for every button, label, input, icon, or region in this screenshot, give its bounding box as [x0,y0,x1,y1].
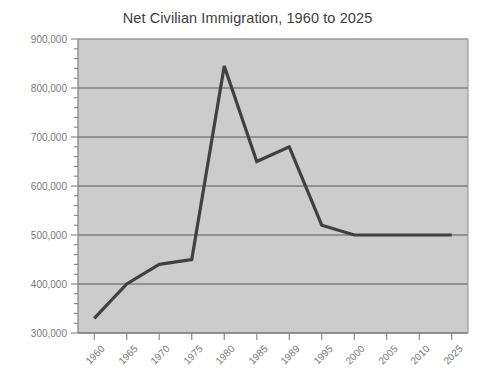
y-axis-tick-label: 800,000 [0,83,67,94]
plot-area: 900,000800,000700,000600,000500,000400,0… [0,0,495,382]
y-axis-ticks [71,39,78,333]
y-axis-tick-label: 900,000 [0,34,67,45]
chart-svg [0,0,495,382]
x-axis-ticks [94,333,452,340]
y-axis-tick-label: 700,000 [0,132,67,143]
y-axis-tick-label: 500,000 [0,230,67,241]
y-axis-tick-label: 300,000 [0,328,67,339]
chart-container: Net Civilian Immigration, 1960 to 2025 9… [0,0,495,382]
y-axis-tick-label: 400,000 [0,279,67,290]
y-axis-tick-label: 600,000 [0,181,67,192]
